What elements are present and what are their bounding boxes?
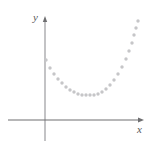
- data-point: [104, 87, 107, 90]
- data-point: [100, 90, 103, 93]
- data-point: [134, 26, 137, 29]
- data-point: [68, 88, 71, 91]
- data-point: [108, 83, 111, 86]
- data-point: [124, 57, 127, 60]
- y-axis-arrow-icon: [43, 16, 47, 22]
- data-point: [120, 65, 123, 68]
- data-point: [72, 90, 75, 93]
- figure-container: y x: [0, 0, 153, 141]
- data-point: [44, 58, 47, 61]
- data-point: [112, 78, 115, 81]
- x-axis-label: x: [137, 124, 142, 135]
- data-point: [76, 92, 79, 95]
- data-point: [56, 77, 59, 80]
- data-point: [92, 93, 95, 96]
- plot-canvas: [0, 0, 153, 141]
- data-point-series: [44, 19, 139, 96]
- data-point: [127, 49, 130, 52]
- data-point: [88, 93, 91, 96]
- data-point: [52, 72, 55, 75]
- x-axis-arrow-icon: [138, 118, 144, 123]
- data-point: [80, 93, 83, 96]
- data-point: [60, 81, 63, 84]
- data-point: [116, 72, 119, 75]
- data-point: [130, 41, 133, 44]
- data-point: [64, 85, 67, 88]
- axes-group: [8, 16, 144, 141]
- data-point: [84, 93, 87, 96]
- data-point: [132, 33, 135, 36]
- data-point: [96, 92, 99, 95]
- data-point: [48, 66, 51, 69]
- y-axis-label: y: [33, 12, 38, 23]
- data-point: [136, 19, 139, 22]
